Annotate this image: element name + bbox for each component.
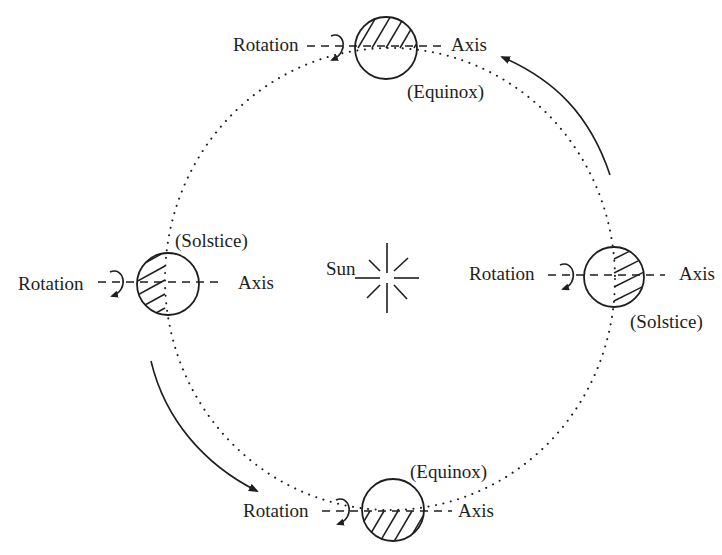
rotation-label-top: Rotation [233,34,299,55]
axis-label-left: Axis [238,272,274,293]
event-label-left: (Solstice) [175,230,248,252]
orbit-direction-arrow-right [502,57,610,175]
axis-label-bottom: Axis [458,500,494,521]
rotation-icon-top [331,35,343,60]
earth-left [98,252,222,338]
earth-top [307,14,444,79]
event-label-right: (Solstice) [630,311,703,333]
sun-icon [355,243,419,313]
sun-label: Sun [326,258,356,279]
event-label-top: (Equinox) [407,81,484,103]
rotation-icon-left [110,271,123,296]
event-label-bottom: (Equinox) [410,461,487,483]
rotation-label-left: Rotation [18,273,84,294]
shading-left [136,252,165,338]
earth-bottom [322,479,452,545]
rotation-label-bottom: Rotation [243,500,309,521]
earth-orbit-diagram: Sun Rotation Axis (Equinox) Rotation Axi… [0,0,722,555]
orbit-path [165,48,615,510]
axis-label-top: Axis [451,34,487,55]
rotation-label-right: Rotation [469,263,535,284]
orbit-direction-arrow-left [151,361,257,491]
axis-label-right: Axis [679,263,715,284]
rotation-icon-right [560,264,573,289]
